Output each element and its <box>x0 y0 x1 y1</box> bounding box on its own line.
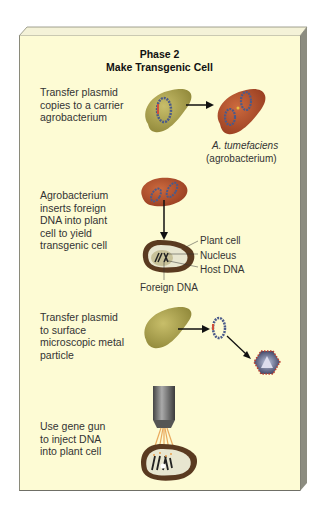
plant-cell-icon <box>0 0 322 508</box>
